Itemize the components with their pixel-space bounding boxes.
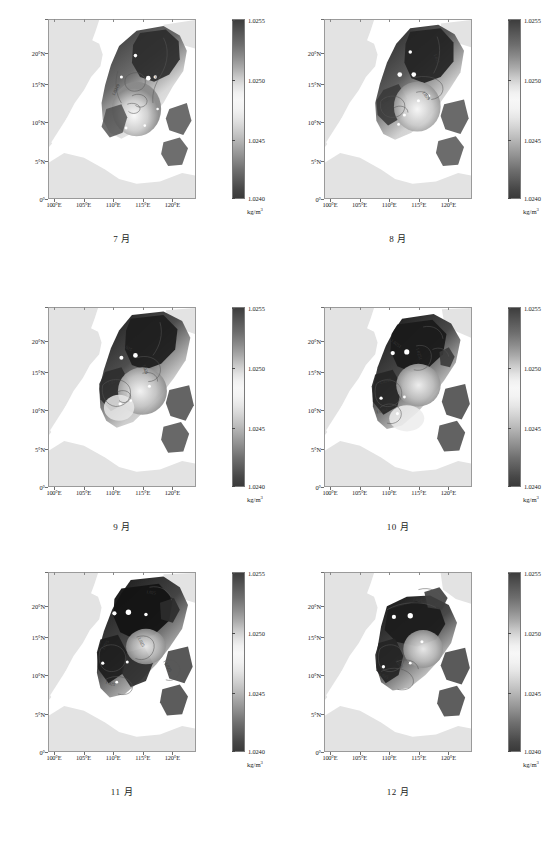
ytick-20n: 20°N [32, 603, 45, 610]
ytick-5n: 5°N [311, 445, 321, 452]
xtick-105e: 105°E [76, 201, 91, 208]
cbtick-1-0255: 1.0255 [248, 16, 265, 23]
map-frame: 1.025 1.025 1.025 1.025 1.025 [48, 572, 196, 752]
colorbar-gradient [232, 572, 245, 752]
xtick-110e: 110°E [382, 489, 397, 496]
map-frame: 1.025 1.025 1.025 [324, 572, 472, 752]
cbtick-1-0245: 1.0245 [524, 689, 541, 696]
unit-text: kg/m [247, 208, 261, 215]
xtick-120e: 120°E [165, 754, 180, 761]
xtick-120e: 120°E [165, 489, 180, 496]
ytick-20n: 20°N [308, 338, 321, 345]
cbtick-1-0255: 1.0255 [524, 569, 541, 576]
panel-caption-jul: 7 月 [48, 232, 196, 245]
plot-area-aug: 1.025 1.025 1.025 20°N 15°N 10°N 5°N 0° [324, 19, 472, 199]
colorbar-gradient [508, 19, 521, 199]
xtick-105e: 105°E [352, 201, 367, 208]
xtick-110e: 110°E [382, 201, 397, 208]
unit-exponent: 3 [261, 207, 263, 212]
xtick-115e: 115°E [411, 201, 426, 208]
density-map-nov: 1.025 1.025 1.025 1.025 1.025 [49, 573, 195, 751]
plot-area-sep: 1.025 1.025 1.025 20°N 15°N 10°N 5°N 0° [48, 307, 196, 487]
panel-aug: 1.025 1.025 1.025 20°N 15°N 10°N 5°N 0° [276, 0, 553, 285]
ytick-15n: 15°N [32, 634, 45, 641]
ytick-15n: 15°N [308, 369, 321, 376]
cbtick-1-0250: 1.0250 [524, 76, 541, 83]
ytick-5n: 5°N [35, 710, 45, 717]
ytick-15n: 15°N [32, 369, 45, 376]
colorbar-unit: kg/m3 [247, 760, 263, 768]
colorbar-nov: 1.0255 1.0250 1.0245 1.0240 kg/m3 [232, 572, 245, 752]
ytick-10n: 10°N [32, 119, 45, 126]
cbtick-1-0245: 1.0245 [248, 424, 265, 431]
xtick-105e: 105°E [352, 754, 367, 761]
ytick-0: 0° [315, 484, 321, 491]
unit-text: kg/m [247, 496, 261, 503]
unit-exponent: 3 [537, 207, 539, 212]
xtick-100e: 100°E [322, 489, 337, 496]
panel-caption-oct: 10 月 [324, 520, 472, 533]
ytick-5n: 5°N [35, 445, 45, 452]
density-map-sep: 1.025 1.025 1.025 [49, 308, 195, 486]
colorbar-unit: kg/m3 [247, 207, 263, 215]
unit-text: kg/m [523, 496, 537, 503]
cbtick-1-0250: 1.0250 [524, 629, 541, 636]
xtick-115e: 115°E [411, 754, 426, 761]
panel-nov: 1.025 1.025 1.025 1.025 1.025 20°N 15°N … [0, 550, 276, 855]
cbtick-1-0245: 1.0245 [248, 136, 265, 143]
panel-dec: 1.025 1.025 1.025 20°N 15°N 10°N 5°N 0° [276, 550, 553, 855]
panel-sep: 1.025 1.025 1.025 20°N 15°N 10°N 5°N 0° [0, 285, 276, 550]
ytick-5n: 5°N [35, 157, 45, 164]
unit-exponent: 3 [537, 760, 539, 765]
panel-caption-aug: 8 月 [324, 232, 472, 245]
unit-text: kg/m [523, 208, 537, 215]
ytick-15n: 15°N [308, 81, 321, 88]
xtick-100e: 100°E [46, 754, 61, 761]
cbtick-1-0255: 1.0255 [248, 569, 265, 576]
cbtick-1-0255: 1.0255 [524, 16, 541, 23]
colorbar-sep: 1.0255 1.0250 1.0245 1.0240 kg/m3 [232, 307, 245, 487]
xtick-120e: 120°E [441, 754, 456, 761]
panel-caption-dec: 12 月 [324, 785, 472, 798]
cbtick-1-0255: 1.0255 [248, 304, 265, 311]
ytick-0: 0° [39, 484, 45, 491]
colorbar-dec: 1.0255 1.0250 1.0245 1.0240 kg/m3 [508, 572, 521, 752]
density-map-oct: 1.0251 1.0251 1.0251 1.0251 [325, 308, 471, 486]
cbtick-1-0250: 1.0250 [248, 76, 265, 83]
xtick-115e: 115°E [135, 201, 150, 208]
unit-exponent: 3 [261, 495, 263, 500]
xtick-115e: 115°E [135, 489, 150, 496]
ytick-10n: 10°N [308, 407, 321, 414]
map-frame: 1.025 1.025 1.025 [48, 307, 196, 487]
map-frame: 1.0249 1.0249 [48, 19, 196, 199]
xtick-100e: 100°E [46, 489, 61, 496]
cbtick-1-0250: 1.0250 [248, 364, 265, 371]
plot-area-jul: 1.0249 1.0249 20°N 15°N 10°N 5°N 0° [48, 19, 196, 199]
panel-caption-nov: 11 月 [48, 785, 196, 798]
plot-area-nov: 1.025 1.025 1.025 1.025 1.025 20°N 15°N … [48, 572, 196, 752]
ytick-0: 0° [39, 749, 45, 756]
ytick-10n: 10°N [308, 672, 321, 679]
ytick-0: 0° [39, 196, 45, 203]
ytick-0: 0° [315, 749, 321, 756]
ytick-5n: 5°N [311, 157, 321, 164]
unit-exponent: 3 [261, 760, 263, 765]
xtick-120e: 120°E [165, 201, 180, 208]
xtick-115e: 115°E [411, 489, 426, 496]
xtick-115e: 115°E [135, 754, 150, 761]
ytick-10n: 10°N [32, 672, 45, 679]
ytick-20n: 20°N [32, 338, 45, 345]
plot-area-dec: 1.025 1.025 1.025 20°N 15°N 10°N 5°N 0° [324, 572, 472, 752]
cbtick-1-0245: 1.0245 [248, 689, 265, 696]
xtick-105e: 105°E [76, 489, 91, 496]
xtick-120e: 120°E [441, 201, 456, 208]
cbtick-1-0245: 1.0245 [524, 424, 541, 431]
xtick-100e: 100°E [322, 201, 337, 208]
ytick-0: 0° [315, 196, 321, 203]
density-map-aug: 1.025 1.025 1.025 [325, 20, 471, 198]
ytick-15n: 15°N [32, 81, 45, 88]
xtick-120e: 120°E [441, 489, 456, 496]
colorbar-gradient [508, 307, 521, 487]
ytick-15n: 15°N [308, 634, 321, 641]
panel-caption-sep: 9 月 [48, 520, 196, 533]
